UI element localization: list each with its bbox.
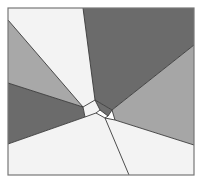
partition-diagram — [0, 0, 199, 180]
cell-12 — [105, 116, 108, 118]
